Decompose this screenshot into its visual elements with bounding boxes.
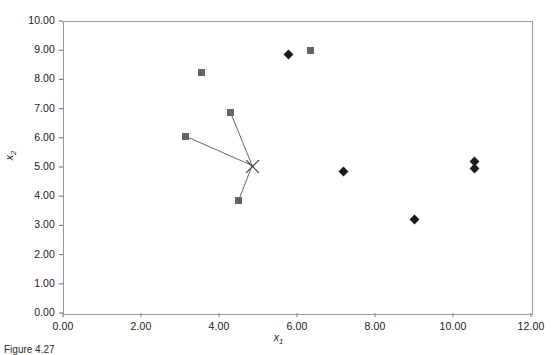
data-point-square [198, 69, 205, 76]
centroid-x-icon [246, 160, 259, 173]
y-tick-label: 4.00 [11, 189, 55, 201]
y-tick-label: 8.00 [11, 72, 55, 84]
y-tick-label: 0.00 [11, 306, 55, 318]
x-axis-title: x1 [0, 331, 557, 346]
y-tick-label: 2.00 [11, 248, 55, 260]
data-point-square [182, 133, 189, 140]
y-tick-label: 1.00 [11, 277, 55, 289]
y-tick-label: 10.00 [11, 14, 55, 26]
y-tick-label: 7.00 [11, 102, 55, 114]
y-tick-label: 3.00 [11, 218, 55, 230]
y-axis-title: x2 [3, 151, 18, 160]
data-point-square [227, 109, 234, 116]
figure-caption: Figure 4.27 [4, 344, 55, 355]
data-point-square [235, 197, 242, 204]
data-point-cross-x [246, 159, 259, 172]
y-tick-label: 9.00 [11, 43, 55, 55]
y-tick-label: 6.00 [11, 131, 55, 143]
plot-frame [63, 21, 533, 315]
data-point-square [307, 47, 314, 54]
y-tick-label: 5.00 [11, 160, 55, 172]
